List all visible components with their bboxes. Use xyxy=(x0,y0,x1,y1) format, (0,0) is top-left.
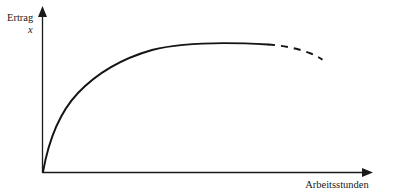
x-axis-arrow-icon xyxy=(362,168,373,177)
y-axis-arrow-icon xyxy=(38,6,47,17)
chart-figure: Ertrag x Arbeitsstunden xyxy=(0,0,414,194)
yield-curve-solid xyxy=(43,43,268,172)
y-axis-label: Ertrag xyxy=(7,12,34,23)
x-axis-label: Arbeitsstunden xyxy=(305,179,369,190)
yield-curve-dashed xyxy=(268,45,323,60)
chart-canvas: Ertrag x Arbeitsstunden xyxy=(0,0,414,194)
y-axis-variable-label: x xyxy=(27,24,33,35)
